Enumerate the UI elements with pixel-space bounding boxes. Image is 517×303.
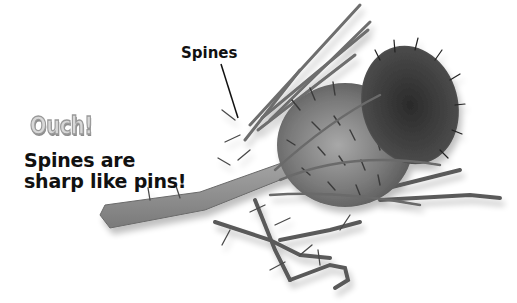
thistle-plant [100, 5, 500, 288]
caption-line-2: sharp like pins! [24, 171, 186, 192]
ouch-heading: Ouch! [30, 111, 93, 140]
caption-text: Spines are sharp like pins! [24, 150, 186, 192]
illustrated-page: Spines Ouch! Spines are sharp like pins! [0, 0, 517, 303]
spines-label: Spines [181, 44, 237, 62]
spines-leader-line [221, 64, 238, 118]
caption-line-1: Spines are [24, 150, 186, 171]
